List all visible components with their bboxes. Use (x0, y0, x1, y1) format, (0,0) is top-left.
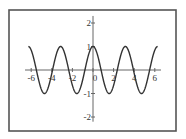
function-plot: -6-4-20246 21-1-2 (0, 0, 186, 139)
y-tick-label: -2 (84, 112, 92, 122)
x-tick-label: 0 (93, 73, 98, 83)
y-tick-label: 2 (87, 18, 92, 28)
x-tick-label: -6 (27, 73, 35, 83)
y-tick-label: -1 (84, 89, 92, 99)
x-tick-label: 6 (153, 73, 158, 83)
